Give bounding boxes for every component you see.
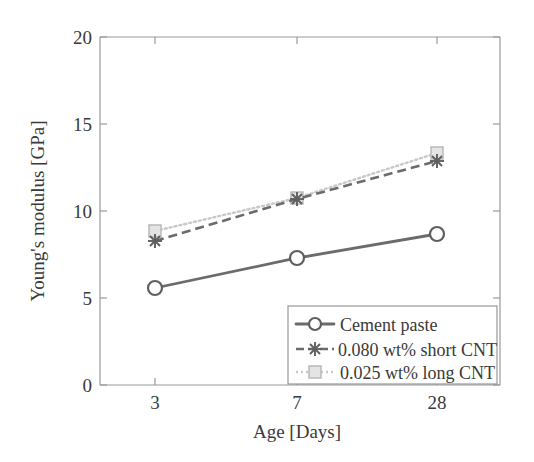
series-cement-paste (148, 227, 444, 295)
legend-label-short-cnt: 0.080 wt% short CNT (338, 340, 497, 360)
series-cement-paste-marker-day3 (148, 281, 162, 295)
square-marker-icon (309, 366, 321, 378)
y-tick-label-5: 5 (83, 288, 93, 309)
y-axis-title: Young's modulus [GPa] (27, 121, 48, 302)
x-axis-title: Age [Days] (253, 421, 341, 442)
series-short-cnt-marker-day3 (148, 234, 162, 248)
x-tick-label-3: 3 (150, 392, 160, 413)
circle-marker-icon (309, 318, 321, 330)
series-short-cnt-marker-day28 (430, 154, 444, 168)
star-marker-icon (308, 342, 322, 356)
legend-label-long-cnt: 0.025 wt% long CNT (340, 363, 495, 383)
legend-label-cement-paste: Cement paste (340, 315, 437, 335)
series-cement-paste-marker-day28 (430, 227, 444, 241)
chart-canvas: 0 5 10 15 20 3 7 28 Age [Days] Young's m… (0, 0, 534, 462)
series-cement-paste-marker-day7 (290, 251, 304, 265)
x-tick-label-7: 7 (292, 392, 302, 413)
x-tick-label-28: 28 (428, 392, 447, 413)
chart-legend[interactable]: Cement paste 0.080 wt% short CNT 0.025 w… (288, 306, 497, 384)
series-short-cnt (148, 154, 444, 248)
y-tick-label-10: 10 (73, 201, 92, 222)
chart-figure: 0 5 10 15 20 3 7 28 Age [Days] Young's m… (0, 0, 534, 462)
y-tick-label-20: 20 (73, 27, 92, 48)
series-short-cnt-marker-day7 (290, 192, 304, 206)
y-tick-label-0: 0 (83, 375, 93, 396)
series-long-cnt (149, 147, 443, 237)
y-tick-label-15: 15 (73, 114, 92, 135)
